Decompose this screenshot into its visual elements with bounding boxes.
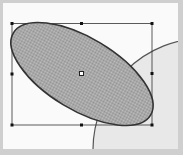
handle-middle-left[interactable] [11,73,14,76]
drawing-layer[interactable] [0,0,183,155]
handle-bottom-center[interactable] [80,124,83,127]
handle-bottom-left[interactable] [11,124,14,127]
handle-top-center[interactable] [80,22,83,25]
handle-top-right[interactable] [151,22,154,25]
handle-top-left[interactable] [11,22,14,25]
handle-bottom-right[interactable] [151,124,154,127]
handle-middle-right[interactable] [151,72,154,75]
center-point-handle[interactable] [80,72,84,76]
